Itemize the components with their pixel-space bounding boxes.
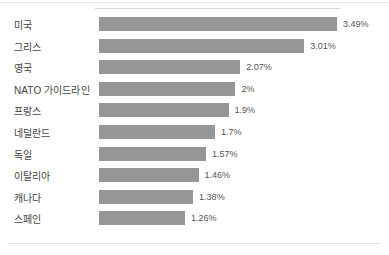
bar (99, 168, 199, 182)
bar (99, 211, 185, 225)
bottom-divider (8, 243, 381, 244)
bar-value-label: 3.01% (310, 41, 336, 51)
bar-category-label: 스페인 (14, 211, 41, 226)
bar-value-label: 1.26% (191, 213, 217, 223)
bar (99, 147, 206, 161)
bar (99, 39, 304, 53)
bar-category-label: NATO 가이드라인 (14, 81, 90, 96)
bar (99, 125, 215, 139)
bar-category-label: 네덜란드 (14, 124, 50, 139)
bar-category-label: 미국 (14, 16, 32, 31)
bar-value-label: 1.38% (199, 192, 225, 202)
bar-row: 스페인1.26% (0, 208, 389, 230)
bar-row: 영국2.07% (0, 56, 389, 78)
bar-row: 프랑스1.9% (0, 100, 389, 122)
bar-category-label: 그리스 (14, 38, 41, 53)
bar-chart-plot-area: 미국3.49%그리스3.01%영국2.07%NATO 가이드라인2%프랑스1.9… (0, 0, 389, 240)
bar (99, 17, 337, 31)
bar-value-label: 1.46% (205, 170, 231, 180)
bar-row: 네덜란드1.7% (0, 121, 389, 143)
bar-row: 독일1.57% (0, 143, 389, 165)
bar (99, 103, 229, 117)
bar-row: 이탈리아1.46% (0, 164, 389, 186)
bar-category-label: 영국 (14, 60, 32, 75)
bar-category-label: 이탈리아 (14, 168, 50, 183)
bar-row: 미국3.49% (0, 13, 389, 35)
bar-row: 그리스3.01% (0, 35, 389, 57)
bar-value-label: 1.57% (212, 149, 238, 159)
bar-category-label: 프랑스 (14, 103, 41, 118)
bar (99, 82, 235, 96)
bar (99, 60, 240, 74)
bar-category-label: 캐나다 (14, 189, 41, 204)
bar-category-label: 독일 (14, 146, 32, 161)
bar-value-label: 2% (241, 84, 254, 94)
bar-value-label: 1.9% (235, 105, 256, 115)
bar-row: NATO 가이드라인2% (0, 78, 389, 100)
bar-value-label: 3.49% (343, 19, 369, 29)
bar-value-label: 2.07% (246, 62, 272, 72)
bar (99, 190, 193, 204)
bar-row: 캐나다1.38% (0, 186, 389, 208)
bar-value-label: 1.7% (221, 127, 242, 137)
